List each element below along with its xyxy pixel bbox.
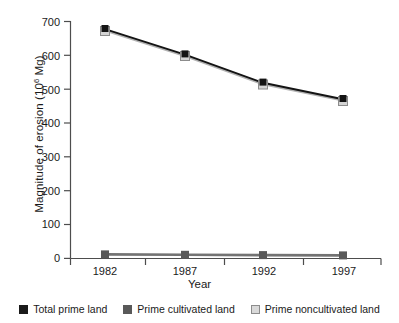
x-axis-ticks [71,259,382,266]
legend-swatch-icon-total-prime-land [19,305,28,314]
legend-label-prime-cultivated-land: Prime cultivated land [137,303,234,315]
legend-label-total-prime-land: Total prime land [33,303,107,315]
legend-item-prime-noncultivated-land: Prime noncultivated land [251,303,380,315]
legend-swatch-icon-prime-noncultivated-land [251,305,260,314]
legend-item-prime-cultivated-land: Prime cultivated land [123,303,234,315]
erosion-line-chart: Magnitude of erosion (106 Mg) 700 600 50… [0,0,399,323]
chart-legend: Total prime land Prime cultivated land P… [0,303,399,315]
series-line-total-prime-land [105,29,343,99]
legend-label-prime-noncultivated-land: Prime noncultivated land [265,303,380,315]
x-axis-title: Year [0,278,399,290]
plot-area [0,0,399,323]
legend-swatch-icon-prime-cultivated-land [123,305,132,314]
series-markers-total-prime-land [102,25,347,102]
y-axis-ticks [64,22,71,259]
series-line-prime-cultivated-land [105,254,343,255]
legend-item-total-prime-land: Total prime land [19,303,107,315]
